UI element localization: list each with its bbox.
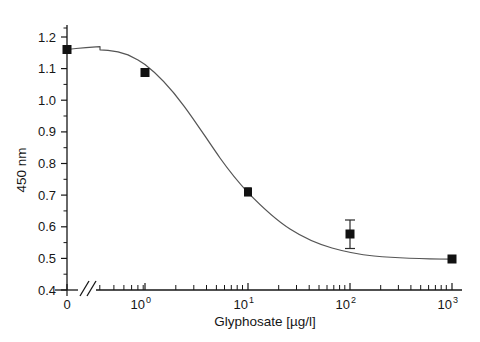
y-axis-title: 450 nm (14, 147, 29, 192)
x-tick-label-exponent: 3 (453, 295, 458, 305)
data-point-marker (448, 255, 457, 264)
y-tick-label: 1.2 (38, 30, 56, 45)
y-tick-label: 0.4 (38, 283, 56, 298)
y-tick-label: 0.5 (38, 251, 56, 266)
x-tick-label-base: 10 (438, 297, 452, 312)
chart-background (0, 0, 480, 342)
data-point-marker (346, 230, 355, 239)
x-tick-label-zero: 0 (63, 297, 70, 312)
x-tick-label-base: 10 (336, 297, 350, 312)
x-tick-label-base: 10 (234, 297, 248, 312)
x-tick-label-exponent: 2 (351, 295, 356, 305)
y-tick-label: 0.6 (38, 219, 56, 234)
x-tick-label-exponent: 1 (249, 295, 254, 305)
y-tick-label: 0.8 (38, 156, 56, 171)
y-axis-tick-labels: 0.4 0.5 0.6 0.7 0.8 0.9 1.0 1.1 1.2 (38, 30, 56, 298)
x-axis-title: Glyphosate [µg/l] (214, 314, 316, 329)
y-tick-label: 0.9 (38, 124, 56, 139)
data-point-marker (244, 188, 252, 197)
y-tick-label: 0.7 (38, 188, 56, 203)
x-tick-label-base: 10 (131, 297, 145, 312)
data-point-marker (63, 45, 72, 54)
chart-plot-area: 0.4 0.5 0.6 0.7 0.8 0.9 1.0 1.1 1.2 0 10… (0, 0, 480, 342)
y-tick-label: 1.0 (38, 93, 56, 108)
y-tick-label: 1.1 (38, 61, 56, 76)
chart-figure: 0.4 0.5 0.6 0.7 0.8 0.9 1.0 1.1 1.2 0 10… (0, 0, 480, 342)
x-tick-label-exponent: 0 (146, 295, 151, 305)
data-point-marker (141, 68, 150, 77)
